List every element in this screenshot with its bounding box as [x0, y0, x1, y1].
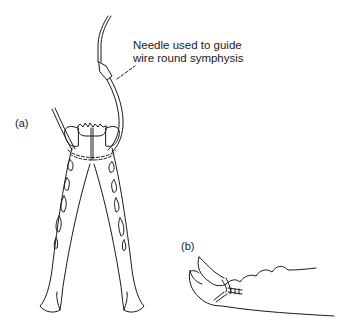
needle-icon — [98, 16, 135, 152]
mandible-ventral-view — [40, 123, 144, 312]
diagram-illustration — [0, 0, 353, 333]
wire-end-icon — [52, 108, 75, 150]
mandible-lateral-view — [189, 257, 334, 316]
